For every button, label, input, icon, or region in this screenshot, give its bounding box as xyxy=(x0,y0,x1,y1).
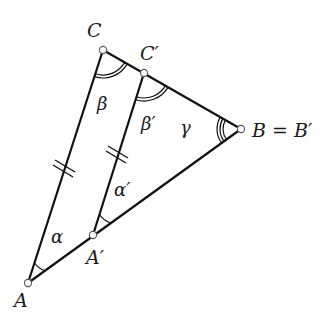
label-gamma: γ xyxy=(180,117,191,138)
point-B xyxy=(237,125,244,132)
angle-arc-gamma xyxy=(217,117,226,143)
label-A: A xyxy=(12,289,28,311)
segment-AB xyxy=(28,129,241,283)
diagram-canvas: A A′ B = B′ C C′ α α′ β β′ γ xyxy=(0,0,326,321)
label-alpha: α xyxy=(51,226,63,247)
angle-arc-alpha-prime xyxy=(100,215,111,223)
similar-triangles-diagram: A A′ B = B′ C C′ α α′ β β′ γ xyxy=(0,0,326,321)
point-A xyxy=(24,279,31,286)
segment-CB xyxy=(103,50,241,129)
label-A-prime: A′ xyxy=(84,246,105,268)
angle-arc-alpha xyxy=(35,263,46,271)
label-beta: β xyxy=(96,93,107,114)
label-C-prime: C′ xyxy=(140,42,160,64)
point-C-prime xyxy=(140,69,147,76)
point-A-prime xyxy=(89,231,96,238)
label-beta-prime: β′ xyxy=(140,113,156,134)
label-B: B = B′ xyxy=(251,119,313,141)
label-alpha-prime: α′ xyxy=(114,179,130,200)
point-C xyxy=(99,46,106,53)
label-C: C xyxy=(87,19,102,41)
